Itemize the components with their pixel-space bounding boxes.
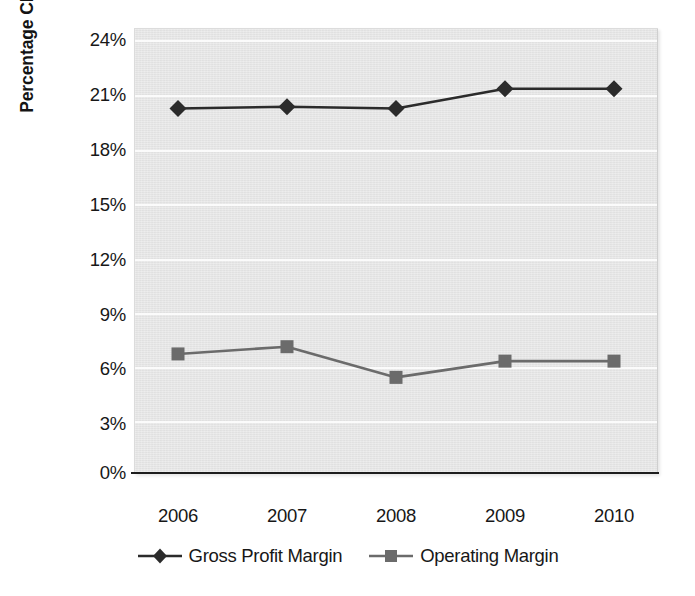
x-tick-label-2007: 2007 xyxy=(242,505,332,527)
y-tick-label-6: 6% xyxy=(52,358,126,380)
gridline-9 xyxy=(135,313,658,315)
y-tick-label-9: 9% xyxy=(52,304,126,326)
gridline-3 xyxy=(135,421,658,423)
chart-legend: Gross Profit Margin Operating Margin xyxy=(0,545,695,567)
y-tick-label-3: 3% xyxy=(52,413,126,435)
x-tick-label-2009: 2009 xyxy=(460,505,550,527)
gridline-12 xyxy=(135,259,658,261)
x-tick-label-2008: 2008 xyxy=(351,505,441,527)
y-axis-title: Percentage Change xyxy=(10,0,44,182)
y-tick-label-12: 12% xyxy=(52,249,126,271)
gridline-6 xyxy=(135,367,658,369)
legend-item-gross-profit-margin[interactable]: Gross Profit Margin xyxy=(137,545,343,567)
legend-label-operating-margin: Operating Margin xyxy=(420,545,558,567)
y-tick-label-15: 15% xyxy=(52,194,126,216)
gridline-15 xyxy=(135,204,658,206)
y-tick-label-24: 24% xyxy=(52,29,126,51)
square-marker-icon xyxy=(368,546,414,566)
y-tick-label-21: 21% xyxy=(52,84,126,106)
x-tick-label-2010: 2010 xyxy=(569,505,659,527)
y-tick-label-18: 18% xyxy=(52,139,126,161)
gridline-24 xyxy=(135,40,658,42)
diamond-marker-icon xyxy=(137,546,183,566)
x-tick-label-2006: 2006 xyxy=(133,505,223,527)
legend-label-gross-profit-margin: Gross Profit Margin xyxy=(189,545,343,567)
x-axis-line xyxy=(131,472,659,474)
y-tick-label-0: 0% xyxy=(52,462,126,484)
line-chart: Percentage Change 24% 21% 18% 15% 12% 9%… xyxy=(0,0,695,596)
legend-item-operating-margin[interactable]: Operating Margin xyxy=(368,545,558,567)
plot-area xyxy=(134,28,658,474)
gridline-21 xyxy=(135,95,658,97)
gridline-18 xyxy=(135,150,658,152)
plot-right-edge xyxy=(657,29,658,474)
